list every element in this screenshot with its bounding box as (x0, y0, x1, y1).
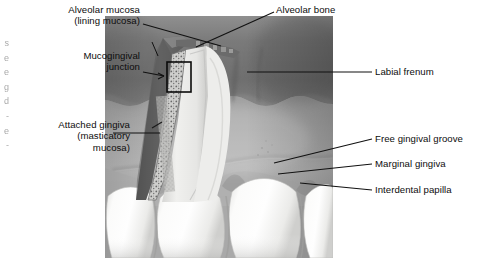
label-mucogingival-junction: Mucogingival junction (18, 50, 140, 73)
page-edge-text-bleed: s e e g d - e - l (0, 36, 9, 156)
label-interdental-papilla: Interdental papilla (375, 184, 479, 195)
label-free-gingival-groove: Free gingival groove (375, 133, 479, 144)
label-labial-frenum: Labial frenum (375, 66, 479, 77)
figure-canvas: Alveolar mucosa (lining mucosa) Mucoging… (0, 0, 479, 258)
label-attached-gingiva: Attached gingiva (masticatory mucosa) (8, 119, 130, 153)
tooth-left-shade (106, 187, 154, 258)
label-marginal-gingiva: Marginal gingiva (375, 158, 479, 169)
label-alveolar-bone: Alveolar bone (276, 4, 386, 15)
label-alveolar-mucosa: Alveolar mucosa (lining mucosa) (18, 4, 140, 27)
tooth-right (304, 185, 333, 258)
tooth-central-right-shade (229, 179, 301, 258)
